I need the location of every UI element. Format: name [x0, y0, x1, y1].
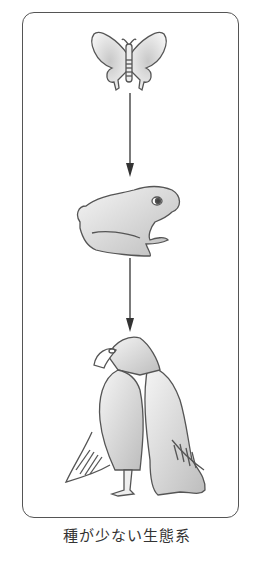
butterfly-icon — [92, 32, 166, 90]
eagle-icon — [66, 337, 205, 496]
arrow-down-icon — [126, 258, 134, 332]
frog-icon — [78, 187, 180, 256]
food-chain-diagram — [0, 0, 253, 571]
arrow-down-icon — [126, 93, 134, 177]
diagram-caption: 種が少ない生態系 — [0, 524, 253, 545]
